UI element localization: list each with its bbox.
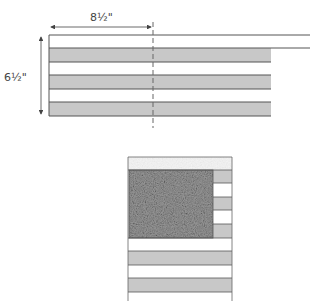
side-strip-5 — [213, 224, 232, 238]
textured-block — [129, 170, 213, 238]
band-1 — [49, 48, 271, 62]
top-light-band — [128, 157, 232, 170]
lower-strip-2 — [128, 251, 232, 265]
top-diagram: 8½" 6½" — [4, 11, 310, 128]
bottom-diagram — [128, 157, 232, 301]
diagram-canvas: 8½" 6½" — [0, 0, 317, 301]
width-label: 8½" — [90, 11, 113, 24]
lower-strip-5 — [128, 292, 232, 301]
side-strip-1 — [213, 170, 232, 183]
height-label: 6½" — [4, 71, 27, 84]
lower-strip-4 — [128, 278, 232, 292]
side-strip-3 — [213, 197, 232, 210]
side-strip-4 — [213, 210, 232, 224]
lower-strip-3 — [128, 265, 232, 278]
side-strip-2 — [213, 183, 232, 197]
band-2 — [49, 75, 271, 89]
band-3 — [49, 102, 271, 116]
lower-strip-1 — [128, 238, 232, 251]
